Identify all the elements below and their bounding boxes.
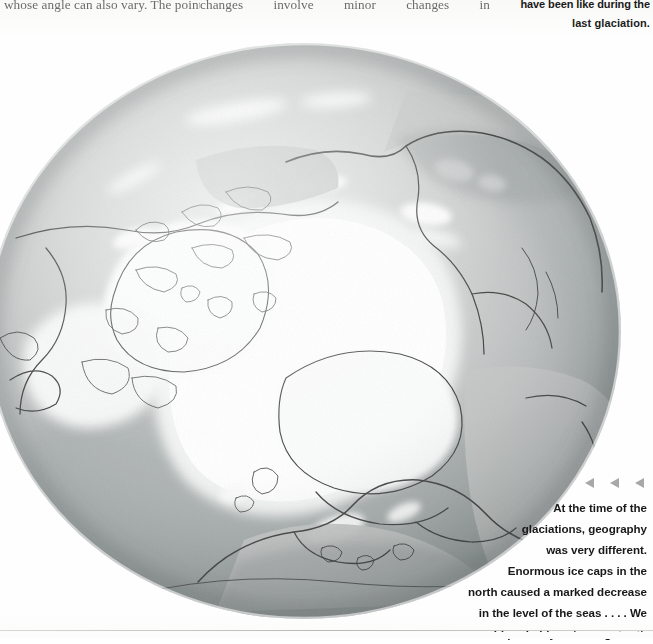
article-line: whose angle can also vary. The point at <box>4 0 200 12</box>
article-column-left: whose angle can also vary. The point at <box>4 0 200 34</box>
caption-line: was very different. <box>397 539 647 560</box>
page-bottom-margin <box>0 632 653 639</box>
caption-line: north caused a marked decrease <box>397 581 647 602</box>
triangle-left-icon <box>635 478 644 488</box>
caption-line: glaciations, geography <box>397 518 647 539</box>
caption-line: in the level of the seas . . . . We <box>397 602 647 623</box>
caption-line: At the time of the <box>397 497 647 518</box>
article-line: changes involve minor changes in <box>200 0 490 12</box>
article-column-sidenote: have been like during the last glaciatio… <box>490 0 650 34</box>
sidenote-line: last glaciation. <box>490 12 650 34</box>
triangle-left-icon <box>610 478 619 488</box>
page-bottom-rule <box>0 630 653 631</box>
figure-caption: At the time of the glaciations, geograph… <box>397 478 647 644</box>
article-column-middle: changes involve minor changes in <box>200 0 490 34</box>
caption-line: Enormous ice caps in the <box>397 560 647 581</box>
article-text-columns: whose angle can also vary. The point at … <box>0 0 653 34</box>
caption-arrow-group <box>397 478 647 488</box>
caption-text: At the time of the glaciations, geograph… <box>397 497 647 644</box>
triangle-left-icon <box>585 478 594 488</box>
sidenote-line: have been like during the <box>490 0 650 12</box>
